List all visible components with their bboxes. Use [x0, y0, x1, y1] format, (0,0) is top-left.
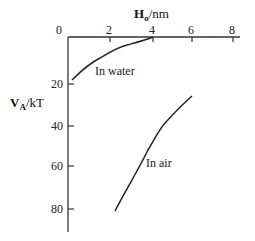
y-tick-label-40: 40	[51, 119, 63, 133]
y-tick-label-80: 80	[51, 202, 63, 216]
x-tick-label-6: 6	[188, 23, 194, 37]
x-tick-label-8: 8	[229, 23, 235, 37]
x-axis-title: Ho/nm	[134, 6, 169, 23]
x-ticks	[110, 37, 233, 42]
label-in-water: In water	[95, 64, 135, 78]
x-tick-label-0: 0	[56, 23, 62, 37]
y-ticks	[68, 84, 74, 209]
x-tick-label-4: 4	[149, 23, 155, 37]
y-axis-title: VA/kT	[10, 95, 44, 112]
chart: 0 2 4 6 8 Ho/nm 20 40 60 80 VA/kT In wat…	[0, 0, 255, 241]
y-tick-label-60: 60	[51, 159, 63, 173]
y-tick-label-20: 20	[51, 77, 63, 91]
label-in-air: In air	[146, 156, 172, 170]
x-tick-label-2: 2	[106, 23, 112, 37]
series-in-air	[115, 96, 192, 211]
